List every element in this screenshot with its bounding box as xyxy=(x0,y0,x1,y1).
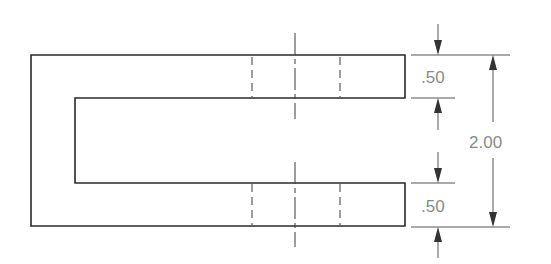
arrow-down-icon xyxy=(434,168,442,183)
arrow-up-icon xyxy=(434,98,442,113)
arrow-up-icon xyxy=(489,55,497,70)
dim-text-overall-height: 2.00 xyxy=(469,133,502,152)
technical-drawing: .50 .50 2.00 xyxy=(0,0,551,264)
dim-text-bottom-flange: .50 xyxy=(421,197,445,216)
arrow-up-icon xyxy=(434,227,442,242)
u-channel-outline xyxy=(31,55,405,226)
arrow-down-icon xyxy=(434,40,442,55)
arrow-down-icon xyxy=(489,212,497,227)
dim-text-top-flange: .50 xyxy=(421,68,445,87)
